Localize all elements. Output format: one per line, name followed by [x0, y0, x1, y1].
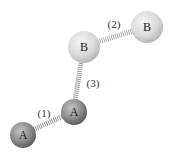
atom-b2: B — [131, 11, 163, 43]
bond-3-label: (3) — [87, 77, 100, 90]
atom-label: A — [19, 128, 28, 142]
atom-label: B — [80, 40, 88, 54]
atom-label: A — [70, 105, 79, 119]
molecule-diagram: A A B B (1) (2) (3) — [0, 0, 172, 158]
bond-3-spring — [75, 63, 81, 100]
atom-label: B — [143, 20, 151, 34]
atom-a1: A — [10, 122, 36, 148]
bond-2-spring — [98, 31, 133, 42]
atom-b1: B — [68, 31, 100, 63]
atom-a2: A — [61, 99, 87, 125]
bond-1-label: (1) — [38, 107, 51, 120]
bond-2-label: (2) — [108, 18, 121, 31]
